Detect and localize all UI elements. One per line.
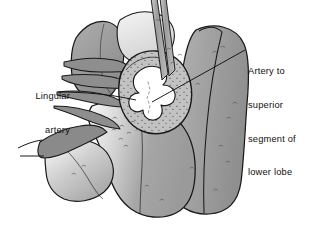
label-lingular-line1: Lingular: [8, 91, 70, 102]
label-superior-line1: Artery to: [248, 66, 312, 77]
label-superior-line3: segment of: [248, 134, 312, 145]
cut-artery-cross-section: [119, 51, 192, 134]
label-lingular-artery: Lingular artery: [8, 69, 70, 159]
label-superior-line4: lower lobe: [248, 167, 312, 178]
anatomical-illustration: Lingular artery Artery to superior segme…: [0, 0, 315, 229]
label-superior-line2: superior: [248, 100, 312, 111]
label-lingular-line2: artery: [8, 125, 70, 136]
label-superior-segment-artery: Artery to superior segment of lower lobe: [248, 44, 312, 201]
